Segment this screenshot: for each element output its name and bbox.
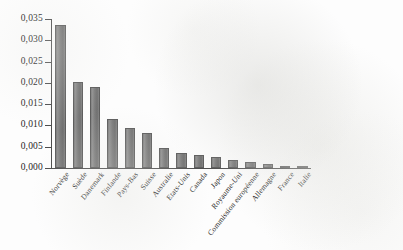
y-axis-tick-label: 0,035: [21, 13, 43, 23]
bar: [142, 133, 152, 168]
bar: [107, 119, 117, 168]
bar-chart: 0,0000,0050,0100,0150,0200,0250,0300,035…: [0, 0, 403, 250]
y-axis-tick-label: 0,020: [21, 77, 43, 87]
bar: [245, 162, 255, 168]
x-axis-category-label: Italie: [296, 170, 313, 189]
y-axis-tick-mark: [45, 62, 51, 63]
y-axis-tick-mark: [45, 40, 51, 41]
bar: [280, 166, 290, 168]
bars-container: [52, 19, 311, 168]
y-axis-tick-label: 0,025: [21, 56, 43, 66]
y-axis-tick-mark: [45, 125, 51, 126]
y-axis-tick-label: 0,005: [21, 141, 43, 151]
y-axis-tick-mark: [45, 19, 51, 20]
y-axis-tick-mark: [45, 104, 51, 105]
bar: [211, 157, 221, 168]
bar: [73, 82, 83, 168]
y-axis-tick-labels: 0,0000,0050,0100,0150,0200,0250,0300,035: [0, 0, 43, 250]
bar: [125, 128, 135, 168]
x-axis-line: [51, 168, 311, 169]
bar: [194, 155, 204, 168]
x-axis-category-label-text: Norvège: [48, 170, 71, 198]
y-axis-tick-label: 0,010: [21, 119, 43, 129]
x-axis-category-label-text: Canada: [188, 170, 209, 195]
bar: [263, 164, 273, 168]
x-axis-category-label: Canada: [188, 170, 210, 194]
x-axis-category-label-text: France: [276, 170, 296, 193]
y-axis-tick-mark: [45, 168, 51, 169]
y-axis-tick-label: 0,015: [21, 98, 43, 108]
bar: [159, 148, 169, 168]
y-axis-tick-label: 0,000: [21, 162, 43, 172]
bar: [55, 25, 65, 168]
y-axis-tick-label: 0,030: [21, 34, 43, 44]
bar: [297, 166, 307, 168]
y-axis-tick-mark: [45, 147, 51, 148]
x-axis-category-label: France: [275, 170, 295, 193]
bar: [176, 153, 186, 168]
x-axis-category-label-text: Italie: [296, 170, 313, 189]
x-axis-category-labels: NorvègeSuèdeDanemarkFinlandePays-BasSuis…: [52, 170, 311, 250]
bar: [90, 87, 100, 168]
bar: [228, 160, 238, 168]
y-axis-tick-mark: [45, 83, 51, 84]
x-axis-category-label: Norvège: [48, 170, 72, 197]
